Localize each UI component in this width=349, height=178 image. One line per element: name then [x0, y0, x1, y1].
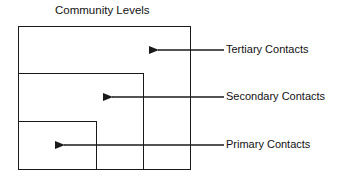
- secondary-contacts-label: Secondary Contacts: [226, 90, 325, 102]
- primary-contacts-label: Primary Contacts: [226, 138, 310, 150]
- tertiary-contacts-label: Tertiary Contacts: [226, 43, 309, 55]
- arrows-layer: [0, 0, 349, 178]
